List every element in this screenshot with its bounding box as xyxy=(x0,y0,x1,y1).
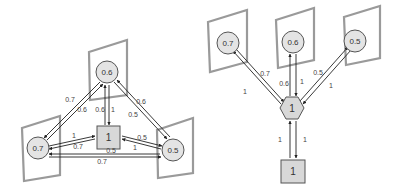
node-left-label: 0.7 xyxy=(222,39,234,48)
edge-label: 0.7 xyxy=(73,143,83,150)
edge-hub-to-right xyxy=(300,47,348,101)
edge-label: 0.6 xyxy=(95,106,105,113)
node-hub-label: 1 xyxy=(289,103,295,114)
edge-label: 1 xyxy=(278,136,282,143)
edge-label: 0.6 xyxy=(279,80,289,87)
edge-label: 0.7 xyxy=(65,96,75,103)
edge-right-to-top xyxy=(117,80,170,137)
edge-label: 1 xyxy=(243,88,247,95)
edge-hub-to-left xyxy=(233,51,281,104)
node-left-label: 0.7 xyxy=(32,144,44,153)
edge-top-to-right xyxy=(114,82,167,139)
edge-label: 1 xyxy=(72,132,76,139)
edge-label: 0.6 xyxy=(136,98,146,105)
left-diagram: 0.6 0.7 0.5 1 0.7 0.6 0.6 1 0.6 0.5 1 0.… xyxy=(22,40,193,181)
edge-center-to-left xyxy=(49,139,95,149)
edge-label: 0.7 xyxy=(260,70,270,77)
node-bottom-label: 1 xyxy=(290,166,296,177)
edge-label: 0.5 xyxy=(106,147,116,154)
node-right-label: 0.5 xyxy=(349,37,361,46)
edge-label: 0.5 xyxy=(137,134,147,141)
edge-label: 1 xyxy=(303,136,307,143)
edge-label: 1 xyxy=(111,106,115,113)
edge-top-to-left xyxy=(44,82,100,138)
edge-label: 0.5 xyxy=(313,69,323,76)
node-center-label: 1 xyxy=(106,132,112,143)
edge-label: 1 xyxy=(133,144,137,151)
edge-label: 1 xyxy=(329,82,333,89)
edge-label: 1 xyxy=(300,78,304,85)
diagram-canvas: 0.6 0.7 0.5 1 0.7 0.6 0.6 1 0.6 0.5 1 0.… xyxy=(0,0,399,190)
node-right-label: 0.5 xyxy=(167,146,179,155)
edge-right-to-hub xyxy=(303,50,351,104)
edge-label: 0.7 xyxy=(97,158,107,165)
node-top-label: 0.6 xyxy=(101,68,113,77)
edge-label: 0.6 xyxy=(77,106,87,113)
right-diagram: 0.7 0.6 0.5 1 1 0.7 1 0.6 1 0.5 1 1 1 xyxy=(208,6,380,183)
node-middle-label: 0.6 xyxy=(287,38,299,47)
edge-label: 0.5 xyxy=(128,111,138,118)
